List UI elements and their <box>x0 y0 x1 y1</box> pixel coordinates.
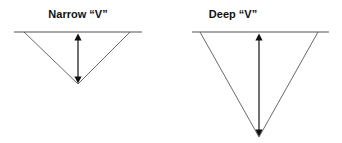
narrow-v-diagram <box>14 32 142 84</box>
v-diagrams <box>0 0 342 143</box>
deep-v-diagram <box>192 32 329 137</box>
narrow-v-shape <box>24 32 130 84</box>
